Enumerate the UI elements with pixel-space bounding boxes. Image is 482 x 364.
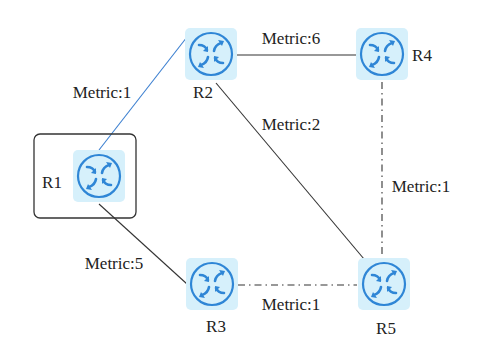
router-r3-icon[interactable] bbox=[186, 258, 238, 310]
router-icon-background bbox=[356, 28, 408, 80]
router-label-r1: R1 bbox=[42, 173, 62, 192]
link-label-r2-r5: Metric:2 bbox=[262, 115, 321, 134]
link-label-r4-r5: Metric:1 bbox=[392, 177, 451, 196]
link-label-r2-r4: Metric:6 bbox=[262, 29, 321, 48]
router-node-r4[interactable] bbox=[356, 28, 408, 80]
router-r4-icon[interactable] bbox=[356, 28, 408, 80]
link-label-r3-r5: Metric:1 bbox=[262, 295, 321, 314]
router-node-r1[interactable] bbox=[73, 150, 125, 202]
router-node-r3[interactable] bbox=[186, 258, 238, 310]
link-r2-r5 bbox=[216, 83, 364, 259]
router-icon-background bbox=[186, 258, 238, 310]
router-node-r2[interactable] bbox=[185, 28, 237, 80]
router-icon-background bbox=[358, 258, 410, 310]
link-label-r1-r2: Metric:1 bbox=[73, 83, 132, 102]
links-layer bbox=[99, 37, 382, 285]
link-label-r1-r3: Metric:5 bbox=[85, 254, 144, 273]
router-label-r5: R5 bbox=[376, 319, 396, 338]
router-label-r2: R2 bbox=[193, 83, 213, 102]
router-label-r4: R4 bbox=[412, 46, 432, 65]
router-r5-icon[interactable] bbox=[358, 258, 410, 310]
router-label-r3: R3 bbox=[206, 317, 226, 336]
network-diagram: Metric:1Metric:6Metric:2Metric:1Metric:5… bbox=[0, 0, 482, 364]
router-node-r5[interactable] bbox=[358, 258, 410, 310]
router-r1-icon[interactable] bbox=[73, 150, 125, 202]
router-r2-icon[interactable] bbox=[185, 28, 237, 80]
router-icon-background bbox=[185, 28, 237, 80]
router-icon-background bbox=[73, 150, 125, 202]
